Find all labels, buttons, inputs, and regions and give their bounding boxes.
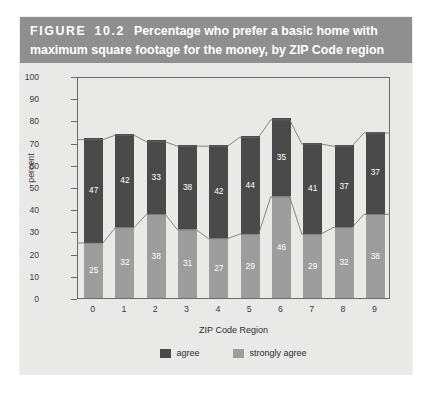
x-axis-tick-label: 0 <box>83 305 103 314</box>
legend-label: strongly agree <box>249 349 306 358</box>
bar-value-label: 41 <box>308 184 317 192</box>
bar-segment-agree: 33 <box>147 140 166 213</box>
y-axis-tick-label: 70 <box>15 140 39 149</box>
bar-value-label: 32 <box>339 258 348 266</box>
bar-group: 3738 <box>366 132 385 298</box>
x-axis-tick-label: 7 <box>302 305 322 314</box>
y-axis-tick-label: 0 <box>15 295 39 304</box>
bar-value-label: 44 <box>245 181 254 189</box>
legend-item: agree <box>160 349 199 358</box>
bar-value-label: 38 <box>183 183 192 191</box>
figure-title-line-1: FIGURE10.2Percentage who prefer a basic … <box>30 22 403 41</box>
bars-layer: 4725423233383831422744293546412937323738 <box>78 78 389 298</box>
bar-value-label: 42 <box>214 187 223 195</box>
legend-swatch-strong <box>233 349 244 358</box>
bar-segment-strongly-agree: 46 <box>272 196 291 298</box>
bar-segment-strongly-agree: 38 <box>147 214 166 298</box>
bar-value-label: 33 <box>152 173 161 181</box>
figure-number: 10.2 <box>94 24 125 38</box>
y-axis-tick-label: 20 <box>15 251 39 260</box>
bar-segment-strongly-agree: 25 <box>84 243 103 299</box>
bar-value-label: 38 <box>152 252 161 260</box>
bar-segment-strongly-agree: 31 <box>178 229 197 298</box>
bar-segment-agree: 41 <box>303 143 322 234</box>
bar-group: 4232 <box>115 134 134 298</box>
bar-group: 4429 <box>241 136 260 298</box>
y-axis-tick-label: 40 <box>15 206 39 215</box>
bar-value-label: 35 <box>277 153 286 161</box>
bar-group: 3732 <box>335 145 354 298</box>
bar-segment-agree: 37 <box>366 132 385 214</box>
legend-label: agree <box>176 349 199 358</box>
chart-legend: agreestrongly agree <box>77 349 390 358</box>
y-axis-tick-label: 90 <box>15 95 39 104</box>
x-axis-tick-label: 4 <box>208 305 228 314</box>
bar-segment-agree: 35 <box>272 118 291 196</box>
x-axis-tick-label: 9 <box>364 305 384 314</box>
x-axis-tick-label: 8 <box>333 305 353 314</box>
bar-group: 3546 <box>272 118 291 298</box>
bar-group: 3338 <box>147 140 166 298</box>
bar-segment-strongly-agree: 32 <box>335 227 354 298</box>
bar-value-label: 42 <box>120 176 129 184</box>
bar-group: 4725 <box>84 138 103 298</box>
figure-label-word: FIGURE <box>30 24 86 38</box>
bar-segment-strongly-agree: 38 <box>366 214 385 298</box>
figure-panel: FIGURE10.2Percentage who prefer a basic … <box>20 17 412 374</box>
bar-value-label: 37 <box>339 182 348 190</box>
bar-segment-strongly-agree: 32 <box>115 227 134 298</box>
bar-segment-agree: 42 <box>209 145 228 238</box>
legend-swatch-agree <box>160 349 171 358</box>
x-axis-label: ZIP Code Region <box>77 325 390 335</box>
bar-segment-agree: 44 <box>241 136 260 234</box>
legend-item: strongly agree <box>233 349 306 358</box>
bar-value-label: 47 <box>89 186 98 194</box>
figure-title-band: FIGURE10.2Percentage who prefer a basic … <box>20 17 412 63</box>
bar-group: 3831 <box>178 145 197 298</box>
bar-segment-agree: 47 <box>84 138 103 242</box>
bar-segment-strongly-agree: 27 <box>209 238 228 298</box>
y-axis-tick-label: 80 <box>15 117 39 126</box>
y-axis-tick-label: 10 <box>15 273 39 282</box>
bar-segment-strongly-agree: 29 <box>303 234 322 298</box>
y-axis-tick-label: 100 <box>15 73 39 82</box>
bar-group: 4129 <box>303 143 322 298</box>
bar-value-label: 32 <box>120 258 129 266</box>
bar-value-label: 29 <box>308 262 317 270</box>
bar-segment-agree: 42 <box>115 134 134 227</box>
bar-value-label: 25 <box>89 266 98 274</box>
chart-area: percent 0102030405060708090100 472542323… <box>20 63 412 374</box>
y-axis-tick-mark <box>71 299 77 300</box>
y-axis-tick-label: 50 <box>15 184 39 193</box>
bar-value-label: 27 <box>214 264 223 272</box>
plot-area: 4725423233383831422744293546412937323738 <box>77 77 390 299</box>
figure-title-rest: Percentage who prefer a basic home with <box>134 24 378 38</box>
bar-segment-agree: 37 <box>335 145 354 227</box>
x-axis-tick-label: 2 <box>145 305 165 314</box>
bar-value-label: 31 <box>183 259 192 267</box>
bar-value-label: 38 <box>371 252 380 260</box>
x-axis-tick-label: 6 <box>270 305 290 314</box>
bar-value-label: 46 <box>277 243 286 251</box>
x-axis-tick-label: 5 <box>239 305 259 314</box>
y-axis-tick-label: 60 <box>15 162 39 171</box>
x-axis-tick-label: 1 <box>114 305 134 314</box>
bar-value-label: 37 <box>371 168 380 176</box>
y-axis-tick-label: 30 <box>15 228 39 237</box>
bar-value-label: 29 <box>245 262 254 270</box>
x-axis-tick-label: 3 <box>177 305 197 314</box>
bar-group: 4227 <box>209 145 228 298</box>
figure-title-line-2: maximum square footage for the money, by… <box>30 41 403 60</box>
bar-segment-agree: 38 <box>178 145 197 229</box>
bar-segment-strongly-agree: 29 <box>241 234 260 298</box>
